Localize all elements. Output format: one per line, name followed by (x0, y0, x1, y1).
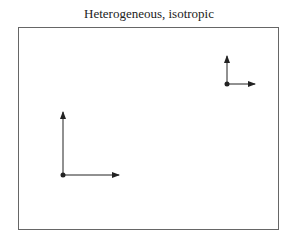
origin-dot-icon (225, 82, 230, 87)
axis-pair-2 (61, 112, 120, 178)
origin-dot-icon (61, 173, 66, 178)
diagram-canvas (0, 0, 291, 241)
axis-pair-1 (225, 56, 256, 87)
